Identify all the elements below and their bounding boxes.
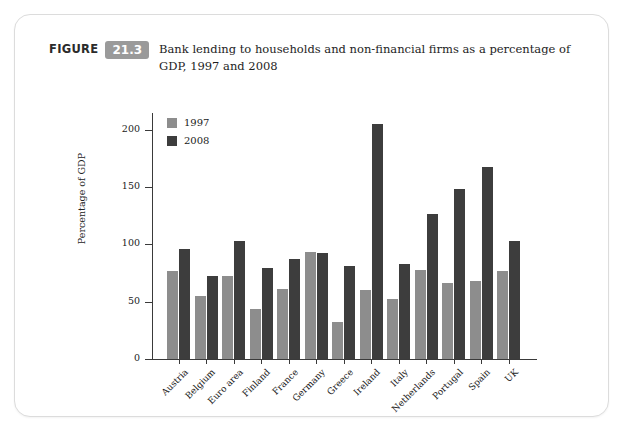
bar-1997 xyxy=(442,283,453,359)
bar-2008 xyxy=(317,253,328,359)
bar-1997 xyxy=(360,290,371,359)
bar-2008 xyxy=(344,266,355,359)
bar-1997 xyxy=(250,309,261,359)
x-axis-tick xyxy=(316,359,317,364)
bar-1997 xyxy=(305,252,316,359)
bar-2008 xyxy=(179,249,190,359)
figure-card: FIGURE 21.3 Bank lending to households a… xyxy=(14,14,609,417)
x-axis-tick xyxy=(289,359,290,364)
bar-group xyxy=(441,121,469,359)
x-axis-tick xyxy=(481,359,482,364)
bar-group xyxy=(331,121,359,359)
bar-2008 xyxy=(509,241,520,359)
bar-1997 xyxy=(415,270,426,359)
bar-1997 xyxy=(332,322,343,359)
bar-1997 xyxy=(167,271,178,359)
x-axis-tick xyxy=(344,359,345,364)
bar-group xyxy=(359,121,387,359)
bar-2008 xyxy=(372,124,383,359)
bar-1997 xyxy=(497,271,508,359)
x-axis-line xyxy=(152,359,537,360)
bar-2008 xyxy=(262,268,273,359)
figure-label-word: FIGURE xyxy=(49,41,98,58)
bar-group xyxy=(304,121,332,359)
x-axis-tick xyxy=(426,359,427,364)
bar-2008 xyxy=(454,189,465,359)
x-axis-tick xyxy=(179,359,180,364)
bar-1997 xyxy=(470,281,481,359)
y-axis-tick-label: 0 xyxy=(110,352,140,363)
bar-group xyxy=(469,121,497,359)
bar-2008 xyxy=(234,241,245,359)
x-axis-tick xyxy=(399,359,400,364)
bar-group xyxy=(386,121,414,359)
bar-group xyxy=(221,121,249,359)
figure-caption-text: Bank lending to households and non-finan… xyxy=(159,41,574,74)
bar-2008 xyxy=(482,167,493,359)
chart-bars-area xyxy=(152,121,520,359)
y-axis-tick-label: 100 xyxy=(110,237,140,248)
x-axis-tick xyxy=(234,359,235,364)
figure-caption: FIGURE 21.3 Bank lending to households a… xyxy=(49,41,574,74)
x-axis-tick xyxy=(206,359,207,364)
y-axis-tick-label: 150 xyxy=(110,180,140,191)
figure-number-badge: 21.3 xyxy=(105,41,149,59)
bar-2008 xyxy=(399,264,410,359)
bar-group xyxy=(249,121,277,359)
y-axis-tick-label: 200 xyxy=(110,123,140,134)
bar-2008 xyxy=(289,259,300,359)
bar-group xyxy=(414,121,442,359)
x-axis-category-label: Austria xyxy=(95,367,190,431)
bar-2008 xyxy=(427,214,438,359)
bar-group xyxy=(166,121,194,359)
bar-2008 xyxy=(207,276,218,359)
bar-group xyxy=(496,121,524,359)
bar-group xyxy=(194,121,222,359)
x-axis-tick xyxy=(509,359,510,364)
bar-group xyxy=(276,121,304,359)
x-axis-tick xyxy=(454,359,455,364)
x-axis-tick xyxy=(261,359,262,364)
y-axis-tick xyxy=(145,359,153,360)
chart-plot-wrapper: Percentage of GDP 050100150200 19972008 … xyxy=(49,101,576,397)
y-axis-tick-label: 50 xyxy=(110,295,140,306)
bar-1997 xyxy=(222,276,233,359)
bar-1997 xyxy=(277,289,288,359)
bar-1997 xyxy=(195,296,206,359)
x-axis-tick xyxy=(371,359,372,364)
bar-1997 xyxy=(387,299,398,359)
y-axis-title: Percentage of GDP xyxy=(76,119,87,279)
